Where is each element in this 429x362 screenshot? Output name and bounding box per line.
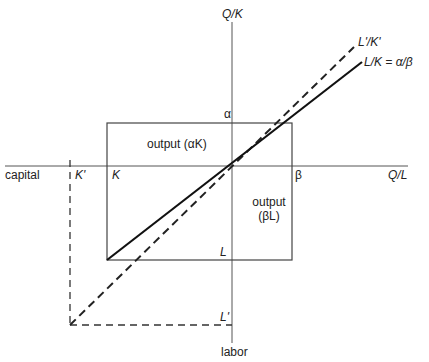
tick-label-l: L (220, 246, 227, 258)
axis-label-q-over-l: Q/L (388, 169, 407, 181)
solid-ray-l-over-k (107, 62, 362, 260)
axis-label-labor: labor (221, 346, 248, 358)
tick-label-k-prime: K' (75, 169, 85, 181)
tick-label-k: K (112, 169, 120, 181)
axis-label-q-over-k: Q/K (222, 8, 243, 20)
production-diagram: Q/K labor capital Q/L α β K K' L L' outp… (0, 0, 429, 362)
tick-label-beta: β (295, 169, 302, 181)
tick-label-alpha: α (224, 108, 231, 120)
region-label-output-alpha-k: output (αK) (147, 138, 207, 150)
region-label-output-beta-l-line1: output (246, 196, 292, 208)
tick-label-l-prime: L' (220, 311, 229, 323)
region-label-output-beta-l-line2: (βL) (246, 210, 292, 222)
region-label-output-beta-l: output (βL) (246, 196, 292, 222)
dashed-ray-l-prime-k-prime (70, 47, 354, 325)
axis-label-capital: capital (5, 169, 40, 181)
ray-label-dashed: L'/K' (358, 36, 381, 48)
ray-label-solid: L/K = α/β (364, 56, 413, 68)
